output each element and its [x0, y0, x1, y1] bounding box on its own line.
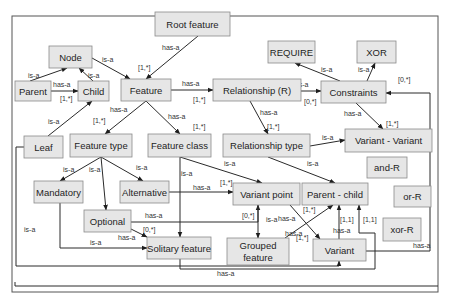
node-relationship-type: Relationship type [223, 134, 310, 157]
edge-relationship-r-to-relationship-type [250, 101, 268, 134]
node-grouped-feature: Groupedfeature [227, 238, 289, 265]
node-require: REQUIRE [268, 41, 315, 63]
edge-relation-label: has-a [278, 215, 296, 222]
edge-solitary-feature-to-constraints [15, 282, 438, 286]
nodes-layer: Root featureNodeParentChildFeatureLeafRe… [15, 12, 432, 265]
node-mandatory: Mandatory [34, 181, 83, 203]
node-node: Node [49, 46, 92, 68]
edge-relation-label: is-a [266, 216, 277, 223]
edge-relation-label: has-a [413, 242, 431, 249]
node-feature-class: Feature class [148, 134, 211, 157]
node-solitary-feature: Solitary feature [147, 237, 211, 259]
edge-relation-label: is-a [102, 56, 113, 63]
edge-relation-label: has-a [118, 234, 136, 241]
node-label: feature [243, 252, 273, 263]
node-and-r: and-R [367, 157, 407, 178]
node-label: Feature [130, 85, 163, 96]
edge-multiplicity-label: [1,*] [93, 117, 106, 125]
node-label: Solitary feature [147, 243, 211, 254]
node-optional: Optional [84, 210, 131, 232]
node-leaf: Leaf [24, 136, 63, 158]
edge-relation-label: is-a [321, 66, 332, 73]
edge-relation-label: has-a [162, 44, 180, 51]
edge-relation-label: has-a [333, 227, 351, 234]
edge-multiplicity-label: [1,*] [220, 179, 233, 187]
node-label: Feature type [74, 140, 127, 151]
edge-relation-label: has-a [110, 106, 128, 113]
node-root-feature: Root feature [155, 12, 230, 36]
node-label: Variant point [240, 189, 293, 200]
edge-relation-label: has-a [193, 184, 211, 191]
edge-constraints-to-require [295, 63, 340, 81]
node-label: xor-R [390, 224, 413, 235]
node-label: Mandatory [36, 187, 81, 198]
node-label: Feature class [151, 140, 208, 151]
node-child: Child [78, 81, 109, 101]
node-or-r: or-R [394, 186, 431, 207]
node-xor-r: xor-R [383, 218, 421, 241]
edge-relation-label: has-a [217, 270, 235, 277]
node-label: Relationship (R) [223, 85, 291, 96]
edge-root-feature-to-feature [146, 36, 198, 79]
node-label: and-R [374, 162, 400, 173]
edge-relation-label: has-a [145, 212, 163, 219]
node-variant-point: Variant point [233, 183, 300, 205]
edge-relation-label: is-a [88, 72, 99, 79]
node-feature-type: Feature type [70, 134, 132, 157]
edge-relation-label: is-a [24, 226, 35, 233]
edge-multiplicity-label: [1,*] [386, 120, 399, 128]
node-label: Constraints [329, 87, 377, 98]
node-label: Grouped [240, 240, 277, 251]
edge-multiplicity-label: [1,*] [138, 64, 151, 72]
edge-relation-label: has-a [168, 113, 186, 120]
edge-relation-label: is-a [28, 72, 39, 79]
node-label: Parent - child [307, 189, 363, 200]
edge-multiplicity-label: [1,1] [340, 216, 354, 224]
edge-multiplicity-label: [0,*] [398, 76, 411, 84]
edge-multiplicity-label: [0,*] [143, 226, 156, 234]
edge-multiplicity-label: [1,*] [267, 123, 280, 131]
node-label: Variant - Variant [355, 135, 423, 146]
edge-relation-label: has-a [285, 230, 303, 237]
node-feature: Feature [121, 79, 171, 101]
node-variant-variant: Variant - Variant [345, 129, 432, 152]
node-label: Node [59, 52, 82, 63]
edge-feature-type-to-optional [101, 157, 106, 210]
edge-relation-label: is-a [63, 166, 74, 173]
edge-multiplicity-label: [1,*] [60, 95, 73, 103]
node-xor: XOR [357, 41, 396, 63]
node-variant: Variant [313, 239, 366, 261]
edge-multiplicity-label: [1,*] [193, 123, 206, 131]
node-parent: Parent [15, 81, 51, 101]
edge-relation-label: is-a [307, 160, 318, 167]
edge-relation-label: has-a [182, 80, 200, 87]
node-label: REQUIRE [270, 47, 313, 58]
edge-relation-label: is-a [322, 134, 333, 141]
edge-relation-label: has-a [260, 109, 278, 116]
node-relationship-r: Relationship (R) [213, 79, 301, 101]
node-alternative: Alternative [120, 181, 169, 203]
edge-relation-label: is-a [358, 66, 369, 73]
edge-multiplicity-label: [0,*] [242, 212, 255, 220]
node-label: Child [83, 86, 105, 97]
node-label: or-R [403, 191, 422, 202]
node-label: Relationship type [230, 140, 303, 151]
edge-relation-label: is-a [224, 160, 235, 167]
edge-multiplicity-label: [0,*] [304, 98, 317, 106]
node-parent-child: Parent - child [302, 183, 368, 205]
edge-multiplicity-label: [1,*] [303, 206, 316, 214]
node-label: XOR [366, 47, 387, 58]
node-label: Variant [325, 245, 355, 256]
edge-relation-label: is-a [48, 118, 59, 125]
edge-multiplicity-label: [1,1] [363, 216, 377, 224]
node-label: Alternative [122, 187, 167, 198]
node-label: Root feature [166, 19, 218, 30]
node-label: Optional [90, 216, 125, 227]
node-label: Parent [19, 86, 47, 97]
edge-relation-label: has-a [344, 110, 362, 117]
edge-relation-label: is-a [89, 166, 100, 173]
edge-multiplicity-label: [1,*] [193, 96, 206, 104]
edge-relation-label: is-a [90, 239, 101, 246]
feature-model-diagram: has-a[1,*]is-ais-ais-ahas-a[1,*]is-ahas-… [0, 0, 450, 306]
node-label: Leaf [34, 142, 53, 153]
